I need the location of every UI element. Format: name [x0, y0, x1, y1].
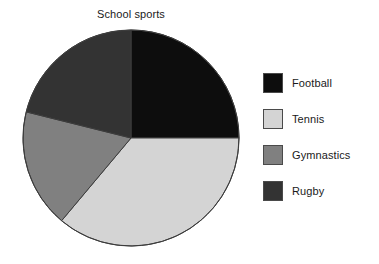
legend-label-football: Football	[292, 77, 332, 89]
pie-slice-football[interactable]	[131, 30, 239, 138]
legend-swatch-tennis	[263, 109, 283, 129]
legend-label-tennis: Tennis	[292, 113, 324, 125]
legend-label-gymnastics: Gymnastics	[292, 149, 350, 161]
pie-slice-group	[23, 30, 239, 246]
legend-swatch-football	[263, 73, 283, 93]
legend-item-tennis[interactable]: Tennis	[263, 101, 379, 137]
legend-item-gymnastics[interactable]: Gymnastics	[263, 137, 379, 173]
legend-label-rugby: Rugby	[292, 185, 324, 197]
legend-item-rugby[interactable]: Rugby	[263, 173, 379, 209]
legend-swatch-rugby	[263, 181, 283, 201]
chart-legend: Football Tennis Gymnastics Rugby	[263, 65, 379, 209]
legend-swatch-gymnastics	[263, 145, 283, 165]
legend-item-football[interactable]: Football	[263, 65, 379, 101]
pie-chart-figure: School sports Football Tennis Gymnastics…	[0, 0, 379, 264]
